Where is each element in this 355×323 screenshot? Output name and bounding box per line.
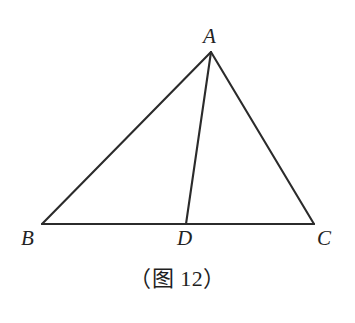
- vertex-label-a: A: [203, 26, 216, 47]
- vertex-label-b: B: [21, 228, 34, 249]
- figure-page: A B D C （图 12）: [0, 0, 355, 323]
- vertex-label-d: D: [177, 228, 192, 249]
- vertex-label-c: C: [317, 228, 331, 249]
- figure-caption: （图 12）: [0, 266, 355, 292]
